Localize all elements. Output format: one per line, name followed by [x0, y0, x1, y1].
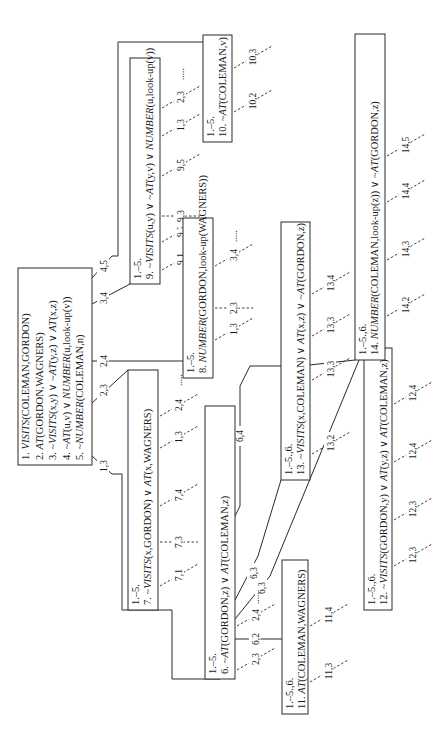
edge-label: 1,3: [99, 460, 109, 472]
clause-line: 12. ~VISITS(GORDON,y) ∨ AT(y,z) ∨ AT(COL…: [378, 359, 390, 605]
clause-box-8: 1.–5.8. NUMBER(GORDON,look-up(WAGNERS)): [183, 174, 213, 378]
branch-label: 1,3: [176, 119, 186, 131]
clause-box-12: 1.–5.,6.12. ~VISITS(GORDON,y) ∨ AT(y,z) …: [364, 348, 392, 610]
branch-label: 2,4: [174, 399, 184, 411]
clause-text: 6. ~: [219, 658, 230, 675]
edge-label: 6,3: [249, 567, 259, 579]
clause-text: 1.–5.: [205, 116, 216, 137]
edge-label: 6,3: [257, 582, 267, 594]
branch-label: 13,3: [326, 360, 336, 377]
clause-text: (GORDON,look-up(WAGNERS)): [197, 174, 209, 319]
branch-label: 2,3: [251, 653, 261, 665]
branch-label: 2,4: [251, 609, 261, 621]
clause-text: 1.: [20, 450, 31, 461]
clause-box-1: 1. VISITS(COLEMAN,GORDON)2. AT(GORDON,WA…: [18, 268, 92, 465]
branch-label: 3,4: [229, 249, 239, 261]
clause-line: 10. ~AT(COLEMAN,v): [217, 36, 229, 137]
clause-box-14: 1.–5.,6.14. NUMBER(COLEMAN,look-up(z)) ∨…: [355, 34, 385, 360]
branch-label: 1,3: [229, 323, 239, 335]
edge-n1-n9: 3,4: [92, 284, 130, 308]
clause-text: (GORDON,z): [369, 101, 381, 161]
clause-line: 6. ~AT(GORDON,z) ∨ AT(COLEMAN,z): [219, 495, 231, 674]
clause-box-7: 1.–5.7. ~VISITS(x,GORDON) ∨ AT(x,WAGNERS…: [128, 370, 158, 610]
clause-text: (COLEMAN,v): [217, 36, 229, 103]
clause-text: 1.–5.: [185, 352, 196, 373]
branch-label: 7,4: [174, 489, 184, 501]
branch-label: 14,3: [401, 240, 411, 257]
clause-line: 1.–5.: [207, 653, 218, 674]
clause-text: 1.–5.,6.: [357, 324, 368, 356]
branch-label: 2,3: [176, 91, 186, 103]
clause-line: 4. ~AT(u,v) ∨ NUMBER(u,look-up(v)): [61, 296, 73, 460]
predicate-name: NUMBER: [369, 296, 380, 340]
predicate-name: VISITS: [144, 232, 155, 262]
clause-line: 5. ~NUMBER(COLEMAN,n): [74, 334, 86, 460]
clause-text: 13. ~: [295, 453, 306, 475]
clause-text: 14.: [369, 339, 380, 355]
branch-label: 14,4: [401, 182, 411, 199]
clause-text: 3. ~: [47, 444, 58, 461]
clause-line: 1.–5.: [205, 116, 216, 137]
ellipsis: .....: [229, 230, 239, 242]
clause-text: (COLEMAN,look-up(z)) ∨ ~: [369, 172, 381, 297]
clause-text: (u,look-up(v)): [144, 47, 156, 107]
clause-line: 1.–5.: [185, 352, 196, 373]
ellipsis: .....: [176, 68, 186, 80]
clause-text: 1.–5.,6.: [283, 444, 294, 476]
clause-text: 4. ~: [61, 444, 72, 461]
branch-label: 12,4: [408, 384, 418, 401]
branch-stubs-10: 10,210,3: [234, 46, 272, 112]
branch-label: 14,5: [401, 136, 411, 153]
clause-line: 13. ~VISITS(x,COLEMAN) ∨ AT(x,z) ∨ ~AT(G…: [295, 222, 307, 475]
branch-label: 2,3: [229, 302, 239, 314]
clause-line: 1.–5.,6.: [366, 574, 377, 606]
predicate-name: VISITS: [47, 413, 58, 443]
predicate-name: NUMBER: [74, 401, 85, 445]
clause-line: 1. VISITS(COLEMAN,GORDON): [20, 313, 32, 460]
edge-label: 2,3: [99, 384, 109, 396]
clause-text: (u,y) ∨ ~: [144, 194, 156, 233]
branch-label: 12,4: [408, 442, 418, 459]
clause-text: (u,v) ∨: [61, 399, 73, 432]
clause-line: 1.–5.: [130, 584, 141, 605]
branch-label: 11,3: [324, 663, 334, 680]
clause-text: (y,z) ∨: [47, 332, 59, 364]
branch-label: 7,3: [174, 536, 184, 548]
clause-text: 9. ~: [144, 263, 155, 280]
clause-line: 11. AT(COLEMAN,WAGNERS): [296, 569, 308, 709]
branch-label: 13,2: [326, 434, 336, 451]
branch-stubs-8: 1,32,33,4.....: [215, 230, 253, 340]
branch-label: 12,3: [408, 500, 418, 517]
tree-group: 1,32,32,43,44,56,26,36,36,4 9,19,29,39,5…: [18, 34, 432, 714]
branch-stubs-11: 11,311,4: [310, 604, 348, 682]
clause-text: 5. ~: [74, 444, 85, 461]
branch-label: 14,2: [401, 296, 411, 313]
branch-stubs-12: 12,312,312,412,4: [394, 382, 432, 566]
branch-label: 13,3: [326, 316, 336, 333]
clause-text: (x,y) ∨ ~: [47, 375, 59, 414]
clause-text: (y,v) ∨: [144, 150, 156, 182]
clause-line: 8. NUMBER(GORDON,look-up(WAGNERS)): [197, 174, 209, 373]
clause-text: 2.: [34, 450, 45, 461]
clause-text: 1.–5.: [130, 584, 141, 605]
predicate-name: NUMBER: [61, 356, 72, 400]
branch-stubs-14: 14,214,314,414,5: [387, 134, 425, 316]
clause-text: (y,z) ∨: [378, 437, 390, 469]
clause-text: 10. ~: [217, 115, 228, 137]
clause-text: 1.–5.: [132, 258, 143, 279]
ellipsis: .....: [251, 592, 261, 604]
clause-line: 2. AT(GORDON,WAGNERS): [34, 332, 46, 460]
clause-text: 1.–5.,6.: [284, 678, 295, 710]
branch-label: 1,3: [174, 431, 184, 443]
branch-label: 10,2: [248, 92, 258, 109]
clause-line: 14. NUMBER(COLEMAN,look-up(z)) ∨ ~AT(GOR…: [369, 101, 381, 355]
edge-label: 6,4: [235, 430, 245, 442]
clause-text: (GORDON,y) ∨: [378, 481, 390, 554]
clause-text: (COLEMAN,GORDON): [20, 313, 32, 420]
clause-line: 1.–5.,6.: [283, 444, 294, 476]
predicate-name: VISITS: [295, 423, 306, 453]
clause-box-10: 1.–5.10. ~AT(COLEMAN,v): [203, 35, 232, 142]
edge-label: 3,4: [99, 292, 109, 304]
branch-label: 13,4: [326, 274, 336, 291]
clause-text: 1.–5.: [207, 653, 218, 674]
